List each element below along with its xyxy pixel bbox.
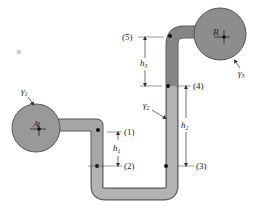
point-3 (164, 164, 168, 168)
tank-b-label: B (213, 27, 219, 37)
manometer-diagram: A B γ1 γ3 γ2 (0, 0, 258, 209)
point-3-label: (3) (196, 161, 207, 171)
tank-a: A (12, 104, 60, 152)
tank-a-label: A (32, 119, 39, 129)
svg-text:γ2: γ2 (143, 100, 150, 111)
gamma2-label: γ2 (143, 100, 165, 118)
point-5-label: (5) (122, 32, 133, 42)
point-1-label: (1) (124, 127, 135, 137)
h1-label: h1 (113, 143, 121, 154)
h2-label: h2 (181, 120, 189, 131)
svg-text:γ1: γ1 (21, 86, 28, 97)
svg-text:γ3: γ3 (238, 68, 245, 79)
gamma3-label: γ3 (235, 61, 245, 79)
speck-dot (17, 50, 21, 54)
tank-b: B (194, 8, 246, 60)
h3-label: h3 (140, 58, 148, 69)
point-4-label: (4) (193, 81, 204, 91)
measurement-points (95, 34, 172, 168)
point-5 (168, 34, 172, 38)
gamma1-label: γ1 (21, 86, 33, 104)
point-1 (96, 128, 100, 132)
point-4 (166, 84, 170, 88)
point-2-label: (2) (124, 161, 135, 171)
